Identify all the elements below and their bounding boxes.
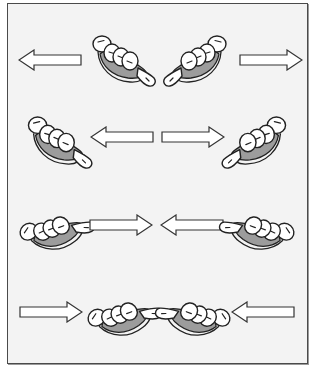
row-1-left-arrow — [17, 49, 83, 71]
row-3-left-hand — [20, 198, 90, 260]
row-3-left-arrow — [88, 214, 154, 236]
row-4-right-arrow — [230, 301, 296, 323]
arrow-left-icon — [230, 301, 296, 323]
row-2-right-hand — [219, 113, 291, 169]
row-2-left-hand — [23, 113, 95, 169]
row-4-left-arrow — [18, 301, 84, 323]
row-2-right-arrow — [160, 126, 226, 148]
arrow-right-icon — [88, 214, 154, 236]
row-1-left-hand — [88, 32, 158, 87]
arrow-right-icon — [238, 49, 304, 71]
hand-icon — [23, 113, 95, 169]
row-2-left-arrow — [89, 126, 155, 148]
row-4-right-hand — [160, 284, 230, 346]
arrow-right-icon — [160, 126, 226, 148]
hand-icon — [161, 32, 231, 87]
hand-icon — [224, 198, 294, 260]
hand-icon — [219, 113, 291, 169]
arrow-left-icon — [17, 49, 83, 71]
arrow-left-icon — [159, 214, 225, 236]
arrow-right-icon — [18, 301, 84, 323]
row-3-right-hand — [224, 198, 294, 260]
row-4-left-hand — [88, 284, 158, 346]
arrow-left-icon — [89, 126, 155, 148]
hand-icon — [20, 198, 90, 260]
row-3-right-arrow — [159, 214, 225, 236]
row-1-right-hand — [161, 32, 231, 87]
hand-icon — [160, 284, 230, 346]
hand-icon — [88, 32, 158, 87]
hand-icon — [88, 284, 158, 346]
row-1-right-arrow — [238, 49, 304, 71]
